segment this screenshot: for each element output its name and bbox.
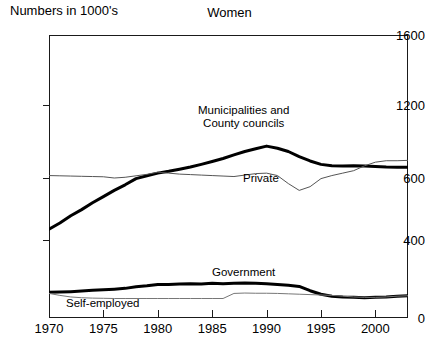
series-label-self-employed: Self-employed [66, 297, 140, 310]
chart-title: Women [0, 5, 425, 20]
x-tick-label-1975: 1975 [80, 322, 126, 335]
series-label-municipalities-line1: Municipalities and [198, 104, 289, 117]
x-tick-label-1995: 1995 [298, 322, 344, 335]
x-tick-label-1985: 1985 [189, 322, 235, 335]
series-label-government: Government [212, 266, 275, 279]
x-tick-label-1970: 1970 [26, 322, 72, 335]
series-label-municipalities: Municipalities and County councils [198, 104, 289, 130]
x-tick-label-1990: 1990 [244, 322, 290, 335]
x-tick-label-1980: 1980 [135, 322, 181, 335]
chart-container: Numbers in 1000's Women 040060012001600 … [0, 0, 425, 351]
series-label-municipalities-line2: County councils [198, 117, 289, 130]
x-tick-label-2000: 2000 [352, 322, 398, 335]
series-label-private: Private [243, 172, 279, 185]
series-line-municipalities-and-county-councils [49, 146, 408, 229]
